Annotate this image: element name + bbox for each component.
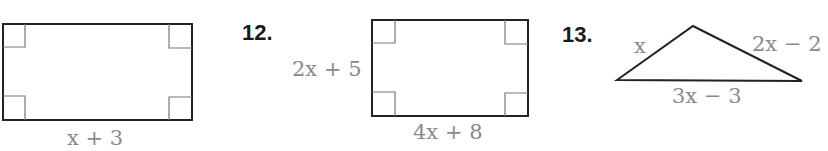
right-angle-mark: [505, 20, 528, 44]
right-angle-mark: [169, 97, 192, 120]
right-angle-mark: [372, 20, 395, 43]
triangle-13-right-label: 2x − 2: [752, 34, 822, 55]
rectangle-12-left-label: 2x + 5: [292, 59, 362, 80]
rectangle-12-bottom-label: 4x + 8: [413, 122, 483, 143]
right-angle-mark: [3, 24, 25, 47]
problem-number-13: 13.: [562, 24, 593, 46]
rectangle-1-bottom-label: x + 3: [67, 128, 123, 149]
right-angle-mark: [372, 92, 395, 116]
triangle-13-left-label: x: [634, 36, 646, 57]
problem-number-12: 12.: [242, 22, 273, 44]
triangle-13-bottom-label: 3x − 3: [672, 86, 742, 107]
right-angle-mark: [505, 93, 528, 116]
rectangle-figure-1: [3, 24, 192, 120]
right-angle-mark: [3, 96, 25, 120]
right-angle-mark: [169, 24, 192, 48]
rectangle-figure-12: [372, 20, 528, 116]
